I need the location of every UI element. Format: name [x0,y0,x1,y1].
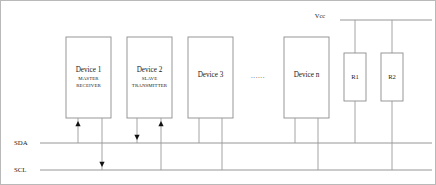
i2c-bus-diagram: Vcc SDA SCL Device 1 MASTER RECEIVER [0,0,436,185]
devices-ellipsis: ...... [251,72,265,80]
device-2-role-line1: SLAVE [142,76,158,81]
scl-bus-group: SCL [14,166,432,173]
resistor-r1-label: R1 [351,73,359,80]
vcc-label: Vcc [315,12,326,19]
device-2-role-line2: TRANSMITTER [132,83,168,88]
device-3-title: Device 3 [198,71,224,79]
device-1-sda-arrow-up [75,121,80,126]
device-1-title: Device 1 [76,66,102,74]
device-3-group: Device 3 [188,37,233,170]
device-1-role-line2: RECEIVER [76,83,101,88]
vcc-rail-group: Vcc [315,12,432,20]
device-1-group: Device 1 MASTER RECEIVER [66,37,111,170]
resistor-r2-label: R2 [388,73,396,80]
device-n-group: Device n [284,37,329,170]
device-2-title: Device 2 [137,66,163,74]
resistor-r1-group: R1 [344,20,366,143]
scl-bus-label: SCL [14,166,26,173]
device-1-role-line1: MASTER [78,76,99,81]
device-1-scl-arrow-down [99,162,104,167]
device-2-group: Device 2 SLAVE TRANSMITTER [127,37,172,170]
sda-bus-label: SDA [14,139,28,146]
resistor-r2-group: R2 [381,20,403,170]
device-2-scl-arrow-up [158,121,163,126]
device-2-sda-arrow-down [134,135,139,140]
device-n-title: Device n [294,71,320,79]
sda-bus-group: SDA [14,139,432,146]
